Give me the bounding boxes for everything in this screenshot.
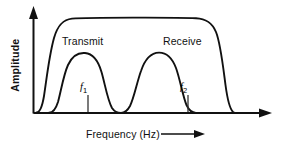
x-axis-arrowhead-icon <box>259 109 272 118</box>
x-axis-label: Frequency (Hz) <box>86 129 160 140</box>
receive-label: Receive <box>163 36 202 47</box>
f1-label: f1 <box>80 81 87 95</box>
f2-subscript: 2 <box>183 86 187 95</box>
figure-container: Transmit Receive Frequency (Hz) Amplitud… <box>0 0 283 148</box>
f2-label: f2 <box>180 81 187 95</box>
y-axis-label: Amplitude <box>10 29 21 101</box>
envelope-curve <box>37 18 237 113</box>
y-axis-arrowhead-icon <box>29 6 38 19</box>
frequency-response-chart <box>0 0 283 148</box>
f1-subscript: 1 <box>83 86 87 95</box>
transmit-label: Transmit <box>62 36 103 47</box>
x-label-arrowhead-icon <box>194 130 205 138</box>
